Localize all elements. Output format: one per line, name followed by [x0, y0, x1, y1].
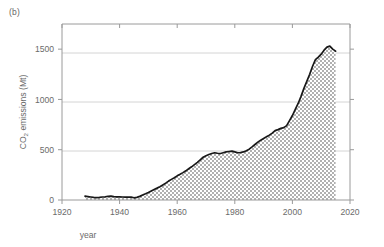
x-tick-label-1960: 1960 [168, 207, 187, 217]
figure-panel: (b) [0, 0, 384, 247]
y-tick-label-1000: 1000 [35, 95, 54, 105]
y-tick-label-500: 500 [40, 145, 55, 155]
svg-text:CO2 emissions (Mt): CO2 emissions (Mt) [18, 75, 29, 150]
x-tick-label-1920: 1920 [52, 207, 71, 217]
x-tick-label-1980: 1980 [225, 207, 244, 217]
x-tick-label-2020: 2020 [340, 207, 359, 217]
y-tick-label-0: 0 [49, 195, 54, 205]
y-tick-label-1500: 1500 [35, 44, 54, 54]
co2-emissions-area-chart: 192019401960198020002020 050010001500 ye… [0, 0, 384, 247]
x-tick-label-2000: 2000 [283, 207, 302, 217]
x-axis-tick-labels: 192019401960198020002020 [52, 207, 359, 217]
y-axis-tick-labels: 050010001500 [35, 44, 54, 205]
x-tick-label-1940: 1940 [110, 207, 129, 217]
x-axis-title: year [80, 230, 97, 240]
y-axis-title: CO2 emissions (Mt) [18, 75, 29, 150]
